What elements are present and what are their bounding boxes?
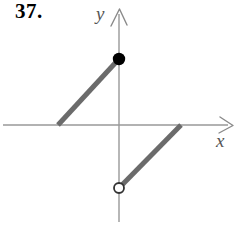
filled-endpoint-dot <box>113 53 125 65</box>
y-axis-label: y <box>94 3 105 24</box>
figure-container: 37. y x <box>0 0 240 225</box>
upper-left-segment <box>58 60 118 125</box>
lower-right-segment <box>120 125 181 187</box>
open-endpoint-circle <box>114 183 124 193</box>
x-axis-label: x <box>215 130 225 151</box>
coordinate-graph: y x <box>0 0 240 225</box>
